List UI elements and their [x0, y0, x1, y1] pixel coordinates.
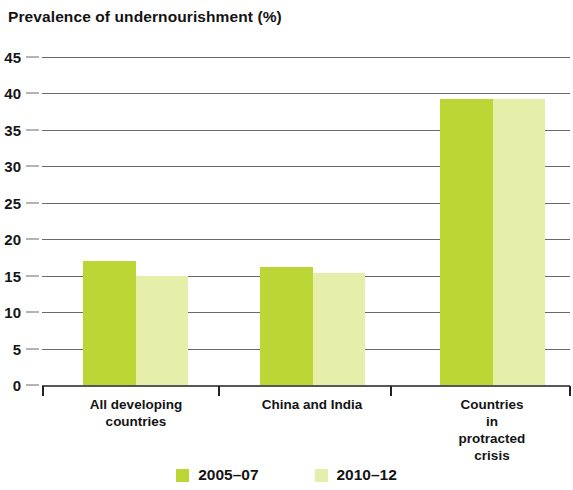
- y-axis-tick-label: 25: [4, 194, 21, 211]
- x-axis-tick-mark: [390, 386, 392, 396]
- x-axis-line: [42, 385, 570, 387]
- x-axis-category-label: Countries in protracted crisis: [452, 396, 533, 464]
- bars-layer: [42, 57, 570, 385]
- chart-title: Prevalence of undernourishment (%): [8, 8, 282, 26]
- y-axis-tick-label: 40: [4, 85, 21, 102]
- y-axis-tick-mark: [26, 312, 39, 313]
- legend-item: 2010–12: [315, 466, 397, 484]
- x-axis-tick-mark: [569, 386, 571, 396]
- y-axis-tick-mark: [26, 57, 39, 58]
- y-axis-tick-mark: [26, 385, 39, 386]
- y-axis-tick-label: 20: [4, 231, 21, 248]
- y-axis: 051015202530354045: [0, 0, 42, 490]
- y-axis-tick-label: 15: [4, 267, 21, 284]
- bar: [440, 99, 493, 385]
- legend-label: 2005–07: [198, 466, 258, 484]
- bar: [83, 261, 136, 385]
- chart-legend: 2005–072010–12: [0, 466, 573, 484]
- y-axis-tick-mark: [26, 166, 39, 167]
- y-axis-tick-mark: [26, 202, 39, 203]
- legend-swatch-icon: [315, 469, 328, 482]
- y-axis-tick-label: 45: [4, 49, 21, 66]
- bar: [136, 276, 189, 385]
- bar: [260, 267, 313, 385]
- y-axis-tick-mark: [26, 93, 39, 94]
- x-axis-tick-mark: [42, 386, 44, 396]
- legend-item: 2005–07: [176, 466, 258, 484]
- y-axis-tick-mark: [26, 239, 39, 240]
- y-axis-tick-label: 35: [4, 121, 21, 138]
- y-axis-tick-mark: [26, 275, 39, 276]
- y-axis-tick-label: 30: [4, 158, 21, 175]
- y-axis-tick-label: 0: [13, 377, 21, 394]
- bar: [313, 273, 366, 385]
- y-axis-tick-mark: [26, 129, 39, 130]
- legend-label: 2010–12: [337, 466, 397, 484]
- y-axis-tick-mark: [26, 348, 39, 349]
- x-axis-tick-mark: [218, 386, 220, 396]
- bar: [493, 99, 546, 385]
- legend-swatch-icon: [176, 469, 189, 482]
- y-axis-tick-label: 10: [4, 304, 21, 321]
- x-axis-category-label: China and India: [262, 396, 363, 413]
- x-axis-category-label: All developing countries: [90, 396, 182, 430]
- bar-chart: Prevalence of undernourishment (%) 05101…: [0, 0, 573, 490]
- y-axis-tick-label: 5: [13, 340, 21, 357]
